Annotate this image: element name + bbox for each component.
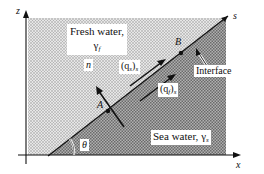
- qf-flux-label: (qf)s: [158, 83, 178, 97]
- qs-flux-label: (qs)s: [119, 60, 140, 74]
- z-axis-arrow-icon: [23, 10, 29, 18]
- s-axis-label: s: [233, 11, 237, 21]
- sea-water-label: Sea water, γs: [151, 130, 211, 145]
- diagram-canvas: [0, 0, 264, 174]
- n-label: n: [84, 59, 93, 71]
- fresh-gamma-symbol: γf: [70, 40, 124, 53]
- interface-label: Interface: [194, 65, 234, 77]
- point-b-label: B: [175, 37, 181, 47]
- fresh-water-text: Fresh water,: [70, 26, 124, 37]
- point-b-dot: [179, 51, 183, 55]
- theta-label: θ: [80, 139, 89, 151]
- x-axis-label: x: [236, 160, 240, 170]
- x-axis-arrow-icon: [233, 152, 241, 158]
- z-axis-label: z: [16, 6, 20, 16]
- point-a-dot: [106, 109, 110, 113]
- fresh-sea-water-interface-diagram: z s x Fresh water, γf n (qs)s (qf)s A B …: [0, 0, 264, 174]
- point-a-label: A: [97, 100, 103, 110]
- fresh-water-label: Fresh water, γf: [67, 24, 127, 55]
